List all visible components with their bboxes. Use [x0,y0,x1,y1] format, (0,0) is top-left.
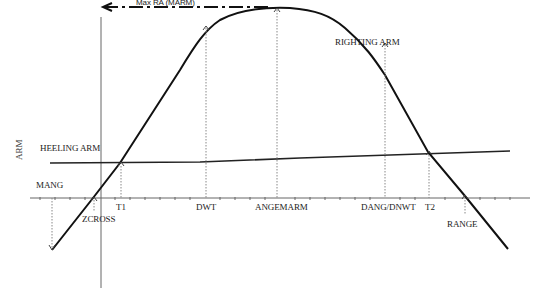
righting-arm-label: RIGHTING ARM [335,37,400,47]
y-axis-label: ARM [14,139,24,160]
range-label: RANGE [447,219,478,229]
dwt-label: DWT [196,202,216,212]
righting-arm-curve [52,8,508,250]
dotted-markers [52,10,465,248]
max-ra-label: Max RA (MARM) [136,0,195,7]
heeling-arm-line [50,151,510,163]
horizontal-axis [30,197,530,200]
t2-label: T2 [425,202,435,212]
t1-label: T1 [116,202,126,212]
heeling-arm-label: HEELING ARM [40,143,100,153]
angemarm-label: ANGEMARM [255,202,308,212]
mang-label: MANG [36,180,63,190]
zcross-label: ZCROSS [82,214,115,224]
dang-dnwt-label: DANG/DNWT [361,202,416,212]
